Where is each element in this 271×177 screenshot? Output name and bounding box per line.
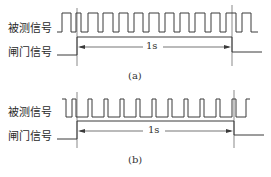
- gate-signal-waveform: [57, 37, 262, 55]
- duration-label: 1s: [146, 40, 158, 51]
- gate-signal-waveform: [57, 121, 264, 139]
- panel-a: 被测信号 闸门信号 1s (a): [0, 0, 271, 88]
- measured-signal-waveform: [62, 99, 250, 117]
- duration-label: 1s: [148, 124, 160, 135]
- panel-b: 被测信号 闸门信号 1s (b): [0, 88, 271, 177]
- panel-caption: (b): [128, 154, 142, 165]
- measured-signal-waveform: [57, 13, 258, 32]
- panel-caption: (a): [128, 70, 142, 81]
